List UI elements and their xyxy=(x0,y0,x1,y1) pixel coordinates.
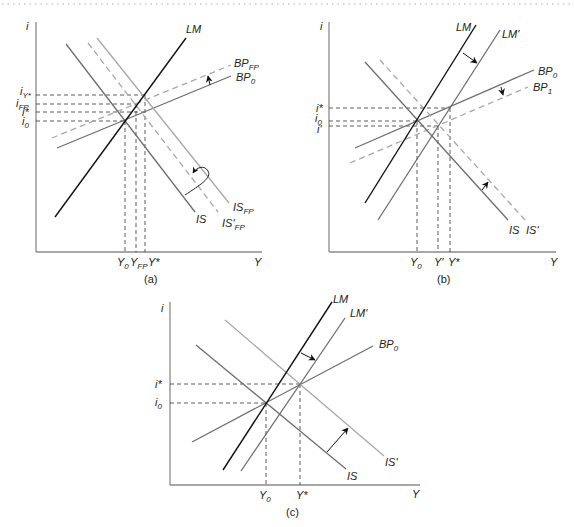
label-bp1: BP1 xyxy=(533,81,552,96)
curve-lm xyxy=(365,25,476,203)
label-lm-prime: LM' xyxy=(502,28,520,40)
panel-c-x-axis-label: Y xyxy=(412,488,420,500)
tick-istar: i* xyxy=(155,378,162,390)
tick-ystar: Y* xyxy=(448,256,460,268)
label-lm-prime: LM' xyxy=(350,307,368,319)
arrow-is-loop xyxy=(185,167,209,195)
tick-yfp: YFP xyxy=(130,256,148,271)
label-is-fp: ISFP xyxy=(233,201,254,216)
curve-bp0 xyxy=(57,76,231,148)
panel-b-x-axis-label: Y xyxy=(550,256,558,268)
tick-ystar: Y* xyxy=(296,489,308,501)
panel-a-y-axis-label: i xyxy=(26,20,29,32)
panel-b: i Y LM LM' BP0 BP1 IS IS' i* i0 i' Y0 Y'… xyxy=(315,20,558,285)
arrow-is-shift xyxy=(482,182,488,190)
label-is-fp-prime: IS'FP xyxy=(222,217,245,232)
label-is: IS xyxy=(347,470,358,482)
curve-lm xyxy=(223,302,332,470)
curve-is xyxy=(196,345,346,469)
arrow-bp-shift xyxy=(208,76,210,85)
tick-y0: Y0 xyxy=(117,256,129,271)
panel-a-x-axis-label: Y xyxy=(254,256,262,268)
curve-bp0 xyxy=(355,70,534,148)
panel-b-y-axis-label: i xyxy=(320,20,323,32)
label-lm: LM xyxy=(456,21,472,33)
panel-c-guides xyxy=(170,384,300,485)
is-lm-bp-figure: i Y LM BPFP BP0 IS ISFP IS'FP iY* iFP i*… xyxy=(0,0,574,527)
label-bp-fp: BPFP xyxy=(234,57,260,72)
arrow-lm-shift xyxy=(463,53,477,63)
label-lm: LM xyxy=(333,293,349,305)
panel-c: i Y LM LM' BP0 IS IS' i* i0 Y0 Y* (c) xyxy=(155,293,420,518)
curve-is-fp xyxy=(97,38,229,203)
panel-a-caption: (a) xyxy=(144,273,157,285)
tick-ystar: Y* xyxy=(148,256,160,268)
label-is: IS xyxy=(509,224,520,236)
arrow-bp-shift xyxy=(501,87,503,95)
tick-y0: Y0 xyxy=(259,489,271,504)
label-bp0: BP0 xyxy=(236,71,256,86)
panel-b-guides xyxy=(329,108,450,252)
panel-c-caption: (c) xyxy=(286,506,299,518)
label-bp0: BP0 xyxy=(379,338,399,353)
curve-bp-fp xyxy=(52,65,231,138)
curve-bp0 xyxy=(192,346,373,442)
arrow-lm-shift xyxy=(301,353,315,360)
panel-b-caption: (b) xyxy=(437,273,450,285)
arrow-is-shift xyxy=(327,428,348,452)
label-bp0: BP0 xyxy=(538,65,558,80)
panel-a: i Y LM BPFP BP0 IS ISFP IS'FP iY* iFP i*… xyxy=(16,20,262,285)
label-is-prime: IS' xyxy=(526,224,539,236)
label-is: IS xyxy=(196,213,207,225)
tick-y0: Y0 xyxy=(410,256,422,271)
curve-is xyxy=(365,62,508,220)
tick-iy: iY* xyxy=(20,85,32,100)
label-lm: LM xyxy=(186,23,202,35)
tick-yprime: Y' xyxy=(434,256,444,268)
curve-lm xyxy=(55,38,186,217)
tick-i0: i0 xyxy=(155,396,162,411)
panel-c-y-axis-label: i xyxy=(161,302,164,314)
label-is-prime: IS' xyxy=(385,456,398,468)
curve-is xyxy=(66,44,195,212)
